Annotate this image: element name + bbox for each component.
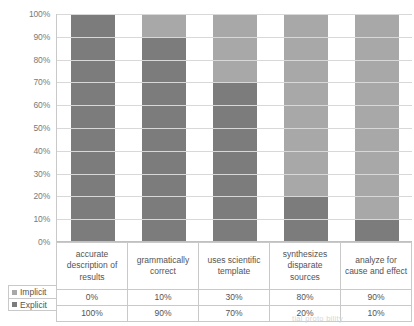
table-row: 100%90%70%20%10%: [57, 306, 412, 322]
footer-text-fragment: tial proto bility: [292, 314, 343, 323]
y-axis-tick-label: 30%: [34, 169, 50, 179]
table-header-cell: synthesizes disparate sources: [270, 243, 341, 290]
y-axis-tick-label: 80%: [34, 55, 50, 65]
legend-label: Implicit: [20, 287, 46, 297]
gridline: [57, 128, 412, 129]
gridline: [57, 174, 412, 175]
y-axis-tick-label: 70%: [34, 77, 50, 87]
bar-segment-explicit[interactable]: [142, 37, 186, 242]
table-value-cell: 30%: [199, 290, 270, 306]
table-header-cell: grammatically correct: [128, 243, 199, 290]
table-body: accurate description of resultsgrammatic…: [57, 243, 412, 322]
table-value-cell: 100%: [57, 306, 128, 322]
y-axis-tick-label: 10%: [34, 214, 50, 224]
legend: ImplicitExplicit: [8, 285, 56, 311]
table-header-cell: analyze for cause and effect: [341, 243, 412, 290]
gridline: [57, 105, 412, 106]
table-header-cell: accurate description of results: [57, 243, 128, 290]
y-axis-tick-label: 50%: [34, 123, 50, 133]
table-value-cell: 10%: [128, 290, 199, 306]
bar-segment-explicit[interactable]: [213, 82, 257, 242]
plot-area: [56, 14, 412, 242]
y-axis-tick-label: 60%: [34, 100, 50, 110]
gridline: [57, 219, 412, 220]
bar-segment-implicit[interactable]: [213, 14, 257, 82]
gridline: [57, 196, 412, 197]
table-header-row: accurate description of resultsgrammatic…: [57, 243, 412, 290]
table-header-cell: uses scientific template: [199, 243, 270, 290]
plot-region: 100%90%80%70%60%50%40%30%20%10%0%: [0, 14, 414, 242]
bar-segment-implicit[interactable]: [355, 14, 399, 219]
legend-item-explicit[interactable]: Explicit: [8, 298, 56, 311]
legend-swatch-icon: [12, 290, 17, 295]
bar-segment-explicit[interactable]: [355, 219, 399, 242]
gridline: [57, 14, 412, 15]
y-axis-tick-label: 40%: [34, 146, 50, 156]
bar-segment-implicit[interactable]: [142, 14, 186, 37]
legend-label: Explicit: [20, 300, 47, 310]
y-axis-tick-label: 90%: [34, 32, 50, 42]
table-value-cell: 0%: [57, 290, 128, 306]
gridline: [57, 82, 412, 83]
gridline: [57, 151, 412, 152]
stacked-bar-chart: 100%90%80%70%60%50%40%30%20%10%0% accura…: [0, 0, 414, 326]
table-value-cell: 90%: [128, 306, 199, 322]
gridline: [57, 60, 412, 61]
table-value-cell: 80%: [270, 290, 341, 306]
chart-data-table: accurate description of resultsgrammatic…: [56, 242, 412, 322]
table-value-cell: 10%: [341, 306, 412, 322]
legend-item-implicit[interactable]: Implicit: [8, 285, 56, 298]
y-axis-tick-label: 100%: [29, 9, 50, 19]
legend-swatch-icon: [12, 302, 17, 307]
gridline: [57, 37, 412, 38]
table-row: 0%10%30%80%90%: [57, 290, 412, 306]
table-value-cell: 70%: [199, 306, 270, 322]
y-axis: 100%90%80%70%60%50%40%30%20%10%0%: [0, 14, 56, 242]
y-axis-tick-label: 0%: [38, 237, 50, 247]
table-value-cell: 90%: [341, 290, 412, 306]
y-axis-tick-label: 20%: [34, 191, 50, 201]
